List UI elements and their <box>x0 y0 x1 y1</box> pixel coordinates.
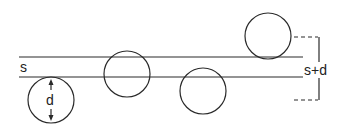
particle-circle-straddling-lower <box>180 68 226 114</box>
diameter-label-d: d <box>46 92 54 108</box>
gap-label-s: s <box>20 59 27 75</box>
effective-width-label: s+d <box>304 62 327 78</box>
slit-diagram: s d s+d <box>0 0 352 131</box>
particle-circle-above <box>245 13 291 59</box>
particle-circle-straddling-gap <box>104 51 150 97</box>
